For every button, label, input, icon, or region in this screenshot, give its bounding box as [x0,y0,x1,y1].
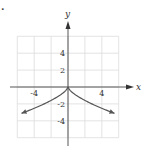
y-axis-arrow-icon [66,21,71,29]
y-axis-label: y [64,9,71,19]
x-tick-label: 4 [99,89,104,98]
y-tick-label: -2 [57,100,65,109]
y-tick-label: 2 [60,66,65,75]
y-tick-label: -4 [57,117,65,126]
axes: xy [10,9,141,146]
y-tick-label: 4 [60,49,65,58]
x-tick-label: -4 [30,89,38,98]
curve-right-branch [68,87,114,113]
x-axis-label: x [136,82,141,92]
graph: xy -4442-2-4 [0,0,143,150]
x-axis-arrow-icon [126,85,134,90]
problem-marker: . [1,1,4,12]
